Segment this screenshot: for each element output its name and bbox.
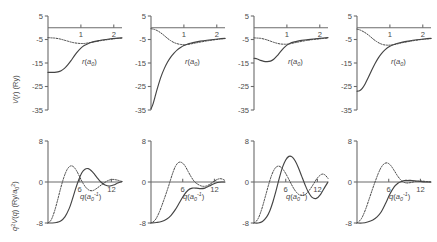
x-tick-label: 12	[313, 185, 321, 194]
x-axis-name: r(a0)	[391, 57, 406, 67]
y-tick-label: 8	[39, 137, 43, 146]
top-row-y-axis-label: V(r) (Ry)	[11, 75, 20, 104]
y-tick-label: 8	[348, 137, 352, 146]
y-tick-label: -35	[32, 106, 43, 115]
y-tick-label: -15	[135, 59, 146, 68]
plot-top-2: 5-5-15-25-3512r(a0)	[129, 8, 229, 120]
figure-panel-grid: V(r) (Ry) q2V(q) (Ry/a02) 5-5-15-25-3512…	[0, 0, 437, 242]
x-axis-name: r(a0)	[82, 57, 97, 67]
x-tick-label: 12	[416, 185, 424, 194]
plot-top-3: 5-5-15-25-3512r(a0)	[232, 8, 332, 120]
panel-bottom-1: 80-8612q(a0-1)	[26, 133, 126, 233]
y-tick-label: -5	[36, 35, 43, 44]
y-tick-label: 5	[39, 12, 43, 21]
x-tick-label: 2	[421, 30, 425, 39]
plot-bottom-2: 80-8612q(a0-1)	[129, 133, 229, 233]
y-tick-label: -25	[135, 82, 146, 91]
panel-top-2: 5-5-15-25-3512r(a0)	[129, 8, 229, 120]
plot-top-1: 5-5-15-25-3512r(a0)	[26, 8, 126, 120]
y-tick-label: 8	[142, 137, 146, 146]
curve-dotted	[254, 38, 328, 44]
y-tick-label: 5	[142, 12, 146, 21]
x-axis-name: r(a0)	[288, 57, 303, 67]
y-tick-label: -15	[341, 59, 352, 68]
y-tick-label: 8	[245, 137, 249, 146]
y-tick-label: 0	[142, 178, 146, 187]
x-axis-name: q(a0-1)	[286, 191, 308, 202]
y-tick-label: -5	[139, 35, 146, 44]
y-tick-label: 5	[348, 12, 352, 21]
x-axis-name: q(a0-1)	[80, 191, 102, 202]
y-tick-label: -25	[341, 82, 352, 91]
x-axis-name: r(a0)	[185, 57, 200, 67]
y-tick-label: -15	[238, 59, 249, 68]
bottom-row-y-axis-label: q2V(q) (Ry/a02)	[10, 181, 20, 231]
x-tick-label: 12	[210, 185, 218, 194]
y-tick-label: 5	[245, 12, 249, 21]
y-tick-label: -35	[238, 106, 249, 115]
plot-top-4: 5-5-15-25-3512r(a0)	[335, 8, 435, 120]
y-tick-label: -8	[242, 219, 249, 228]
y-tick-label: -25	[238, 82, 249, 91]
x-tick-label: 1	[388, 30, 392, 39]
y-tick-label: 0	[39, 178, 43, 187]
y-tick-label: -8	[139, 219, 146, 228]
y-tick-label: 0	[245, 178, 249, 187]
panel-top-4: 5-5-15-25-3512r(a0)	[335, 8, 435, 120]
plot-bottom-1: 80-8612q(a0-1)	[26, 133, 126, 233]
panel-top-3: 5-5-15-25-3512r(a0)	[232, 8, 332, 120]
x-tick-label: 1	[79, 30, 83, 39]
y-tick-label: -35	[135, 106, 146, 115]
plot-bottom-3: 80-8612q(a0-1)	[232, 133, 332, 233]
x-axis-name: q(a0-1)	[389, 191, 411, 202]
y-tick-label: -5	[242, 35, 249, 44]
y-tick-label: 0	[348, 178, 352, 187]
y-tick-label: -25	[32, 82, 43, 91]
y-tick-label: -5	[345, 35, 352, 44]
x-tick-label: 1	[182, 30, 186, 39]
panel-bottom-3: 80-8612q(a0-1)	[232, 133, 332, 233]
x-tick-label: 1	[285, 30, 289, 39]
x-axis-name: q(a0-1)	[183, 191, 205, 202]
y-tick-label: -8	[36, 219, 43, 228]
curve-solid	[151, 38, 225, 109]
y-tick-label: -35	[341, 106, 352, 115]
y-tick-label: -15	[32, 59, 43, 68]
panel-top-1: 5-5-15-25-3512r(a0)	[26, 8, 126, 120]
x-tick-label: 2	[215, 30, 219, 39]
panel-bottom-4: 80-8612q(a0-1)	[335, 133, 435, 233]
y-tick-label: -8	[345, 219, 352, 228]
panel-bottom-2: 80-8612q(a0-1)	[129, 133, 229, 233]
plot-bottom-4: 80-8612q(a0-1)	[335, 133, 435, 233]
